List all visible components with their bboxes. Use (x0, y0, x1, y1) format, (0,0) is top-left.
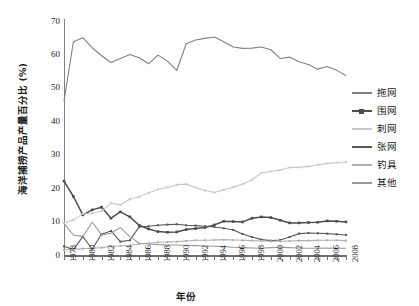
x-tick-mark (130, 256, 131, 260)
x-tick-mark (290, 256, 291, 260)
data-point-marker (241, 221, 244, 224)
y-tick-label: 50 (34, 83, 60, 92)
legend-color-swatch (352, 128, 372, 130)
y-tick-label: 10 (34, 217, 60, 226)
data-point-marker (345, 221, 348, 224)
x-tick-mark (149, 256, 150, 260)
data-point-marker (326, 162, 328, 164)
data-point-marker (176, 231, 179, 234)
data-point-marker (223, 220, 226, 223)
x-tick-mark (92, 256, 93, 260)
data-point-marker (270, 240, 272, 242)
data-point-marker (91, 212, 93, 214)
data-point-marker (251, 236, 253, 238)
data-point-marker (223, 189, 225, 191)
data-point-marker (260, 216, 263, 219)
data-point-marker (72, 195, 75, 198)
x-tick-mark (83, 256, 84, 260)
data-point-marker (298, 166, 300, 168)
y-tick-label: 30 (34, 150, 60, 159)
data-point-marker (194, 227, 197, 230)
data-point-marker (100, 206, 103, 209)
data-point-marker (336, 162, 338, 164)
data-point-marker (213, 226, 215, 228)
data-point-marker (63, 180, 66, 183)
chart-legend: 拖网围网刺网张网钓具其他 (352, 84, 418, 192)
data-point-marker (101, 247, 103, 249)
x-tick-mark (177, 256, 178, 260)
data-point-marker (119, 211, 122, 214)
legend-label: 钓具 (377, 160, 397, 170)
data-point-marker (176, 184, 178, 186)
y-tick-label: 40 (34, 117, 60, 126)
legend-label: 刺网 (377, 124, 397, 134)
x-tick-mark (261, 256, 262, 260)
data-point-marker (213, 191, 215, 193)
data-point-marker (195, 186, 197, 188)
data-point-marker (72, 219, 74, 221)
x-tick-mark (280, 256, 281, 260)
legend-item-2[interactable]: 刺网 (352, 120, 418, 138)
chart-figure: 海洋捕捞产品产量百分比 (%) 010203040506070 19781980… (0, 0, 419, 306)
data-point-marker (213, 224, 216, 227)
x-tick-mark (120, 256, 121, 260)
data-point-marker (232, 239, 234, 241)
data-point-marker (326, 220, 329, 223)
legend-label: 围网 (377, 106, 397, 116)
x-tick-mark (214, 256, 215, 260)
legend-item-1[interactable]: 围网 (352, 102, 418, 120)
legend-item-5[interactable]: 其他 (352, 174, 418, 192)
x-axis-title: 年份 (176, 289, 196, 303)
data-point-marker (204, 189, 206, 191)
data-point-marker (148, 225, 150, 227)
data-point-marker (251, 179, 253, 181)
data-point-marker (138, 196, 140, 198)
data-point-marker (138, 226, 140, 228)
data-point-marker (82, 248, 84, 250)
legend-item-4[interactable]: 钓具 (352, 156, 418, 174)
y-axis-title: 海洋捕捞产品产量百分比 (%) (15, 49, 29, 209)
legend-item-3[interactable]: 张网 (352, 138, 418, 156)
y-axis-tick-labels: 010203040506070 (30, 0, 60, 306)
data-point-marker (157, 241, 159, 243)
legend-color-swatch (352, 92, 372, 94)
data-point-marker (195, 239, 197, 241)
legend-label: 拖网 (377, 88, 397, 98)
x-tick-mark (158, 256, 159, 260)
x-tick-mark (299, 256, 300, 260)
data-point-marker (270, 170, 272, 172)
legend-color-swatch (352, 182, 372, 184)
data-point-marker (345, 161, 347, 163)
data-point-marker (110, 217, 113, 220)
x-tick-label: 2008 (350, 228, 360, 262)
x-tick-mark (233, 256, 234, 260)
data-point-marker (166, 186, 168, 188)
x-tick-mark (346, 256, 347, 260)
data-point-marker (289, 166, 291, 168)
x-tick-mark (167, 256, 168, 260)
x-tick-mark (337, 256, 338, 260)
data-point-marker (335, 220, 338, 223)
data-point-marker (101, 210, 103, 212)
data-point-marker (232, 220, 235, 223)
x-tick-mark (243, 256, 244, 260)
data-point-marker (204, 225, 206, 227)
data-point-marker (176, 241, 178, 243)
legend-label: 其他 (377, 178, 397, 188)
data-point-marker (317, 221, 320, 224)
data-point-marker (166, 224, 168, 226)
data-point-marker (270, 216, 273, 219)
data-point-marker (91, 209, 94, 212)
data-point-marker (260, 172, 262, 174)
data-point-marker (251, 217, 254, 220)
data-point-marker (251, 240, 253, 242)
data-point-marker (317, 164, 319, 166)
data-point-marker (129, 198, 131, 200)
legend-label: 张网 (377, 142, 397, 152)
data-point-marker (195, 225, 197, 227)
legend-item-0[interactable]: 拖网 (352, 84, 418, 102)
data-point-marker (232, 229, 234, 231)
x-tick-mark (224, 256, 225, 260)
data-point-marker (298, 222, 301, 225)
data-point-marker (345, 240, 347, 242)
